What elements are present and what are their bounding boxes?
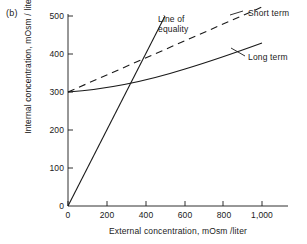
plot-canvas (0, 0, 307, 244)
series-long-term (68, 43, 262, 92)
leader-line-short-term (230, 11, 243, 15)
axis-lines (68, 14, 288, 206)
leader-line-long-term (231, 48, 245, 56)
series-line-of-equality (68, 16, 165, 206)
figure-panel: (b) Internal concentration, mOsm / liter… (0, 0, 307, 244)
